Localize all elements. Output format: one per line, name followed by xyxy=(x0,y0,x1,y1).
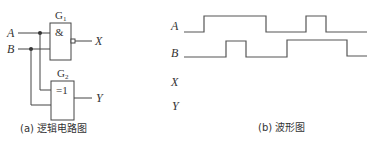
diagram-canvas: A B G1 & X G2 =1 Y (a) 逻辑电路图 A xyxy=(0,0,375,144)
gate-g1-symbol: & xyxy=(55,26,64,38)
waveform-diagram: A B X Y (b) 波形图 xyxy=(170,16,367,133)
waveform-label-y: Y xyxy=(172,99,180,113)
output-label-x: X xyxy=(94,34,103,48)
inversion-bubble-icon xyxy=(71,39,75,43)
gate-g2-symbol: =1 xyxy=(56,84,68,96)
circuit-caption: (a) 逻辑电路图 xyxy=(20,122,87,134)
output-label-y: Y xyxy=(96,91,104,105)
logic-circuit: A B G1 & X G2 =1 Y (a) 逻辑电路图 xyxy=(6,9,104,134)
waveform-a xyxy=(184,16,367,32)
gate-g2-label: G2 xyxy=(57,67,69,81)
gate-g1-label: G1 xyxy=(55,9,67,23)
waveform-b xyxy=(184,40,367,57)
input-label-a: A xyxy=(6,26,15,40)
input-label-b: B xyxy=(7,42,15,56)
gate-g2: G2 =1 xyxy=(51,67,92,120)
waveform-label-x: X xyxy=(170,75,179,89)
wire-a-to-g2 xyxy=(40,33,51,90)
waveform-caption: (b) 波形图 xyxy=(258,121,305,133)
wire-b-to-g2 xyxy=(31,49,51,105)
waveform-label-b: B xyxy=(171,46,179,60)
gate-g1: G1 & xyxy=(50,9,92,60)
waveform-label-a: A xyxy=(170,19,179,33)
